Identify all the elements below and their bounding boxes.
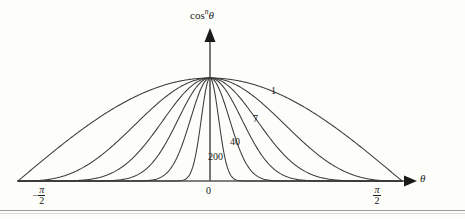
x-tick-label-neg-half-pi: −π2 xyxy=(22,185,56,206)
y-axis-title-variable: θ xyxy=(208,9,213,21)
leader-line-n-7 xyxy=(257,120,286,157)
leader-line-n-200 xyxy=(222,158,236,180)
page-rule-primary xyxy=(0,210,465,211)
fraction-denominator: 2 xyxy=(373,196,380,206)
curve-label-200: 200 xyxy=(208,152,223,162)
x-tick-label-zero: 0 xyxy=(206,186,211,196)
page-rule-secondary xyxy=(0,213,465,214)
fraction-neg-half-pi: π2 xyxy=(38,185,45,206)
y-axis-title: cosnθ xyxy=(190,8,214,21)
x-axis-title: θ xyxy=(420,173,425,184)
y-axis-title-base: cos xyxy=(190,9,205,21)
plot-canvas xyxy=(0,0,465,219)
figure-container: cosnθ θ 1 7 40 200 0 −π2 π2 xyxy=(0,0,465,219)
y-axis-arrowhead xyxy=(205,28,216,42)
curve-label-7: 7 xyxy=(253,114,258,124)
curve-label-40: 40 xyxy=(230,137,240,147)
fraction-denominator: 2 xyxy=(38,196,45,206)
fraction-pos-half-pi: π2 xyxy=(373,185,380,206)
x-tick-label-pos-half-pi: π2 xyxy=(360,185,394,206)
curve-label-1: 1 xyxy=(271,86,276,96)
x-axis-arrowhead xyxy=(404,176,417,187)
